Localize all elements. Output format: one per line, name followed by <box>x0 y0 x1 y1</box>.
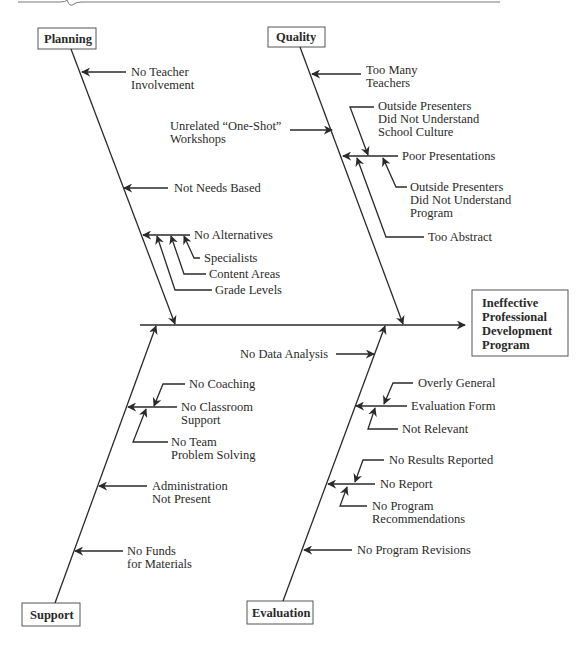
cause-label: Too Many <box>366 63 418 77</box>
cause-label: Not Needs Based <box>174 181 262 195</box>
subcause-label: No Team <box>171 435 217 449</box>
subcause-label: Outside Presenters <box>378 99 472 113</box>
effect-line: Development <box>482 324 553 338</box>
cause-label: Involvement <box>131 78 195 92</box>
subcause-label: No Program <box>372 499 434 513</box>
cause-label: No Classroom <box>181 400 253 414</box>
category-planning: Planning No Teacher Involvement Not Need… <box>38 28 282 324</box>
category-label-evaluation: Evaluation <box>252 606 310 620</box>
cause-label: Teachers <box>366 76 410 90</box>
page-top-rule <box>18 0 500 5</box>
cause-label: Support <box>181 413 221 427</box>
subcause-arrow <box>384 383 413 404</box>
category-evaluation: Evaluation No Data Analysis Evaluation F… <box>240 326 496 624</box>
subcause-label: Content Areas <box>209 267 280 281</box>
cause-label: No Data Analysis <box>240 347 328 361</box>
cause-label: Evaluation Form <box>411 399 496 413</box>
category-label-support: Support <box>30 608 75 622</box>
subcause-label: Too Abstract <box>428 230 493 244</box>
category-support: Support No Classroom Support No Coaching… <box>22 326 256 626</box>
category-label-planning: Planning <box>44 32 93 46</box>
subcause-arrow <box>133 409 168 442</box>
category-label-quality: Quality <box>276 30 317 44</box>
cause-label: Workshops <box>170 132 226 146</box>
subcause-arrow <box>350 107 374 155</box>
effect-line: Ineffective <box>482 296 539 310</box>
cause-label: Not Present <box>152 492 211 506</box>
effect-line: Program <box>482 338 530 352</box>
subcause-label: Problem Solving <box>171 448 256 462</box>
subcause-label: No Coaching <box>189 377 256 391</box>
effect-box: Ineffective Professional Development Pro… <box>472 290 568 356</box>
cause-label: No Teacher <box>131 65 189 79</box>
cause-label: Administration <box>152 479 228 493</box>
cause-label: for Materials <box>127 557 192 571</box>
cause-label: No Funds <box>127 544 176 558</box>
subcause-label: Overly General <box>418 376 496 390</box>
subcause-label: Not Relevant <box>402 422 469 436</box>
fishbone-diagram: Ineffective Professional Development Pro… <box>0 0 587 648</box>
cause-label: No Report <box>380 477 433 491</box>
subcause-label: Specialists <box>204 251 258 265</box>
cause-label: Poor Presentations <box>402 149 496 163</box>
subcause-label: Grade Levels <box>215 283 282 297</box>
subcause-label: Did Not Understand <box>410 193 512 207</box>
subcause-label: Recommendations <box>372 512 465 526</box>
cause-label: No Program Revisions <box>357 543 471 557</box>
effect-line: Professional <box>482 310 548 324</box>
cause-label: No Alternatives <box>194 228 273 242</box>
subcause-label: Program <box>410 206 453 220</box>
subcause-label: Did Not Understand <box>378 112 480 126</box>
subcause-label: No Results Reported <box>389 453 494 467</box>
cause-label: Unrelated “One-Shot” <box>170 119 281 133</box>
subcause-arrow <box>368 408 398 429</box>
bone-evaluation <box>283 326 385 601</box>
subcause-label: Outside Presenters <box>410 180 504 194</box>
subcause-label: School Culture <box>378 125 454 139</box>
subcause-arrow <box>340 487 367 506</box>
